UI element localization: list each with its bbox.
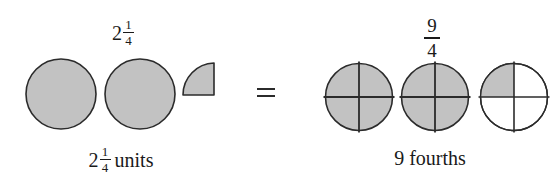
left-bottom-label: 2 1 4 units [55,145,187,174]
mixed-number-with-unit: 2 1 4 units [89,145,154,174]
denominator: 4 [424,39,440,60]
mixed-number: 2 1 4 [112,18,134,47]
numerator: 1 [100,145,111,159]
left-shape-quarter-wedge [181,60,217,98]
right-group: 9 4 [300,0,557,185]
whole-part: 2 [89,150,99,170]
fraction-part: 1 4 [100,145,111,174]
right-shape-quartered-circle-2 [399,61,471,133]
fraction-equivalence-diagram: 2 1 4 [0,0,557,185]
denominator: 4 [100,160,111,174]
numerator: 9 [424,16,440,37]
equals-bar-top [257,88,275,90]
left-top-label: 2 1 4 [100,18,146,47]
right-top-label: 9 4 [410,16,454,60]
left-group: 2 1 4 [0,0,245,185]
left-shape-circle-2 [103,57,177,131]
right-shape-quartered-circle-3 [478,61,550,133]
equals-bar-bottom [257,95,275,97]
numerator: 1 [123,18,134,32]
right-shape-quartered-circle-1 [323,61,395,133]
unit-word: units [115,150,154,170]
left-shape-circle-1 [24,57,98,131]
fraction-part: 1 4 [123,18,134,47]
denominator: 4 [123,33,134,47]
equals-sign [257,88,275,100]
whole-part: 2 [112,23,122,43]
fraction-nine-fourths: 9 4 [424,16,440,60]
right-bottom-label: 9 fourths [360,148,500,168]
